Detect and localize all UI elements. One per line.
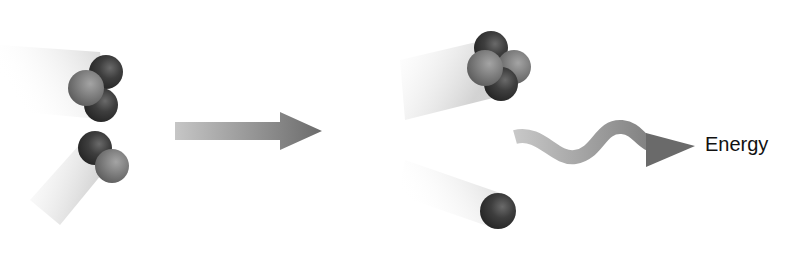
neutron-particle [480,193,516,229]
energy-label: Energy [705,133,768,156]
product-particle-2 [398,160,516,229]
reactant-nucleus-2 [30,131,129,225]
product-nucleus-1 [400,31,531,120]
energy-wave-arrow-icon [515,127,695,167]
proton-particle [95,149,129,183]
reaction-arrow-icon [175,112,322,150]
proton-particle [68,70,104,106]
fusion-diagram [0,0,812,257]
reactant-nucleus-1 [0,45,123,122]
proton-particle [467,50,503,86]
